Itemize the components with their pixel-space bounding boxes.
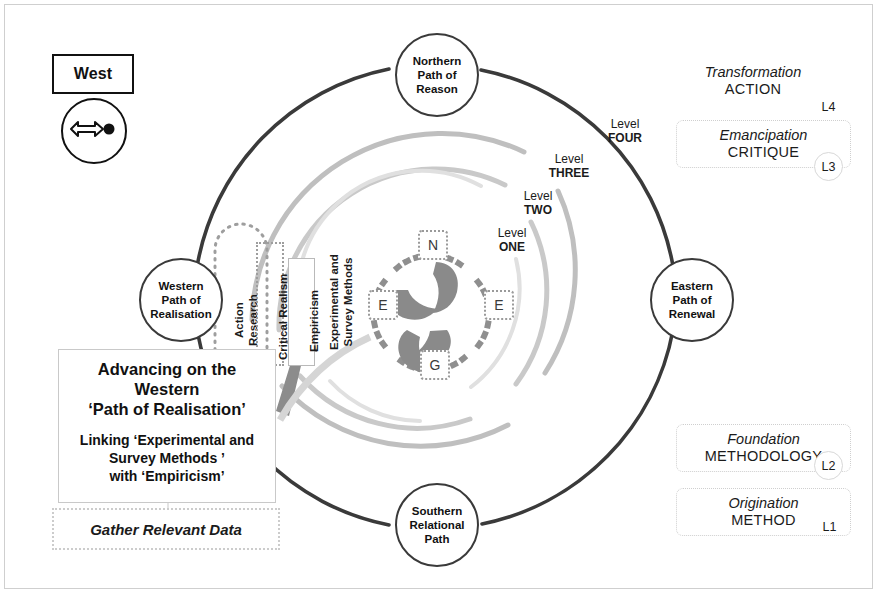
level-badge-l2: L2 [814,451,843,480]
level-badge-l1: L1 [816,513,843,540]
legend-l4-caps: ACTION [660,81,846,98]
callout-advancing-western-path: Advancing on the Western ‘Path of Realis… [58,349,276,503]
ring-label-level-three: Level THREE [540,153,598,181]
method-label-experimental-survey: Experimental and Survey Methods [327,254,356,350]
node-northern-path: Northern Path of Reason [395,33,479,117]
callout-sub-line1: Linking ‘Experimental and [80,432,254,448]
callout-sub-line2: Survey Methods ’ [109,450,225,466]
legend-l1-italic: Origination [677,495,850,512]
method-experimental-line2: Survey Methods [342,258,354,347]
west-legend-label: West [74,65,113,83]
west-legend-box: West [52,54,134,94]
hub-cell-south: G [420,350,450,380]
method-experimental-line1: Experimental and [328,254,340,350]
node-eastern-path: Eastern Path of Renewal [650,258,734,342]
gather-relevant-data-box: Gather Relevant Data [52,508,280,550]
callout-title-line2: Western [135,380,200,398]
arrow-dot-compass-icon [61,98,127,164]
callout-title-line1: Advancing on the [98,360,236,378]
legend-l4-italic: Transformation [660,64,846,81]
ring-label-level-one: Level ONE [486,227,538,255]
node-southern-path: Southern Relational Path [395,483,479,567]
method-label-empiricism: Empiricism [307,290,321,352]
callout-sub-line3: with ‘Empiricism’ [109,468,224,484]
ring-label-level-two: Level TWO [512,190,564,218]
hub-cell-east: E [484,290,514,320]
hub-cell-west: E [368,290,398,320]
gather-relevant-data-label: Gather Relevant Data [90,521,242,538]
level-badge-l4: L4 [815,93,842,120]
diagram-canvas: West Transformation ACTION L4 Emancipati… [0,0,879,595]
level-badge-l3: L3 [814,152,843,181]
hub-cell-north: N [418,230,448,260]
legend-card-l4: Transformation ACTION [660,58,846,102]
ring-label-level-four: Level FOUR [597,118,653,146]
callout-title-line3: ‘Path of Realisation’ [88,400,246,418]
node-western-path: Western Path of Realisation [139,258,223,342]
method-action-research-line1: Action [233,302,245,338]
legend-l2-italic: Foundation [677,431,850,448]
legend-l3-italic: Emancipation [677,127,850,144]
